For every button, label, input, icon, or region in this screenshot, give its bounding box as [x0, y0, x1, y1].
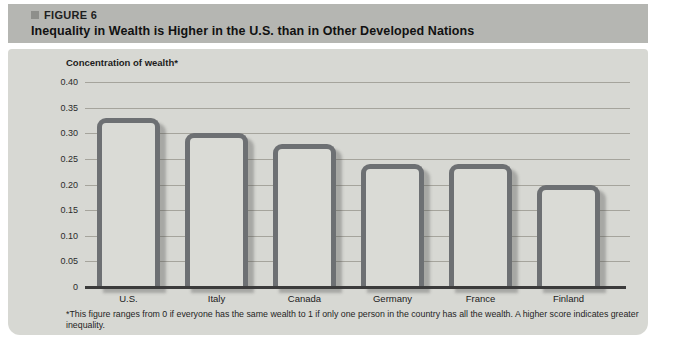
- gridline-0.40: [85, 82, 630, 83]
- figure-page: FIGURE 6 Inequality in Wealth is Higher …: [0, 0, 675, 340]
- bar-finland: [537, 185, 600, 289]
- y-tick-label: 0: [36, 281, 78, 293]
- gridline-0.35: [85, 108, 630, 109]
- x-category-label: Finland: [525, 293, 613, 304]
- figure-label-row: FIGURE 6: [31, 7, 636, 22]
- x-axis-line: [85, 286, 626, 289]
- y-tick-label: 0.30: [36, 127, 78, 139]
- y-tick-label: 0.25: [36, 153, 78, 165]
- bar-germany: [361, 164, 424, 288]
- bar-italy: [185, 133, 248, 288]
- y-tick-label: 0.15: [36, 204, 78, 216]
- bar-france: [449, 164, 512, 288]
- figure-footnote: *This figure ranges from 0 if everyone h…: [66, 309, 644, 331]
- x-category-label: U.S.: [85, 293, 173, 304]
- x-category-label: Italy: [173, 293, 261, 304]
- chart-panel: Concentration of wealth* 0.400.350.300.2…: [8, 49, 648, 335]
- y-tick-label: 0.10: [36, 230, 78, 242]
- figure-block: FIGURE 6 Inequality in Wealth is Higher …: [8, 4, 648, 335]
- figure-label: FIGURE 6: [44, 9, 97, 21]
- y-axis-label: Concentration of wealth*: [66, 57, 178, 68]
- y-tick-label: 0.20: [36, 179, 78, 191]
- x-category-label: Canada: [261, 293, 349, 304]
- y-tick-label: 0.40: [36, 76, 78, 88]
- x-category-label: Germany: [349, 293, 437, 304]
- bar-us: [97, 118, 160, 288]
- figure-header: FIGURE 6 Inequality in Wealth is Higher …: [8, 4, 648, 43]
- bar-canada: [273, 144, 336, 289]
- figure-title: Inequality in Wealth is Higher in the U.…: [31, 24, 636, 38]
- gridline-0.30: [85, 133, 630, 134]
- y-tick-label: 0.35: [36, 102, 78, 114]
- y-tick-label: 0.05: [36, 255, 78, 267]
- gridline-0.25: [85, 159, 630, 160]
- x-category-label: France: [437, 293, 525, 304]
- figure-bullet-icon: [31, 11, 39, 19]
